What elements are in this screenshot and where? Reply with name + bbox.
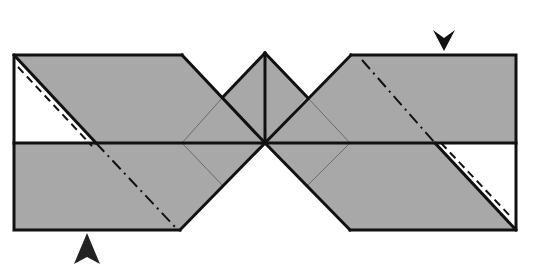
arrow-down-icon [433, 30, 455, 51]
left-bottom-band [14, 143, 265, 230]
origami-fold-diagram [0, 0, 534, 273]
caption-text [0, 262, 534, 273]
arrow-up-icon [74, 233, 100, 264]
